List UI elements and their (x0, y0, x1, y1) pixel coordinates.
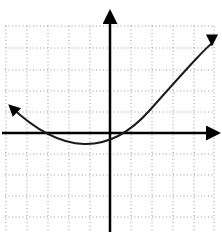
function-graph (0, 0, 222, 232)
